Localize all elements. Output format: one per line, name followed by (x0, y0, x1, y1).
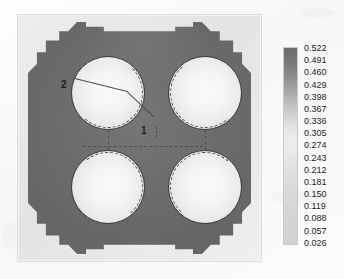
colorbar-tick-6: 0.336 (304, 116, 340, 127)
colorbar-tick-3: 0.429 (304, 80, 340, 91)
colorbar-tick-11: 0.181 (304, 177, 340, 188)
colorbar: 0.5220.4910.4600.4290.3980.3670.3360.305… (283, 47, 341, 249)
colorbar-tick-12: 0.150 (304, 189, 340, 200)
colorbar-tick-7: 0.305 (304, 128, 340, 139)
colorbar-tick-5: 0.367 (304, 104, 340, 115)
colorbar-tick-9: 0.243 (304, 153, 340, 164)
colorbar-tick-15: 0.057 (304, 226, 340, 237)
figure-root: 2 1 0.5220.4910.4600.4290.3980.3670.3360… (0, 0, 344, 279)
plot-frame-border (17, 14, 262, 262)
scan-artifact (2, 220, 18, 250)
colorbar-gradient-swatch (283, 47, 298, 245)
plot-panel: 2 1 (17, 14, 262, 262)
colorbar-tick-labels: 0.5220.4910.4600.4290.3980.3670.3360.305… (304, 43, 340, 249)
colorbar-tick-16: 0.026 (304, 238, 340, 249)
scan-artifact (300, 8, 334, 18)
colorbar-tick-2: 0.460 (304, 67, 340, 78)
colorbar-tick-13: 0.119 (304, 201, 340, 212)
colorbar-tick-4: 0.398 (304, 92, 340, 103)
colorbar-tick-14: 0.088 (304, 213, 340, 224)
colorbar-tick-10: 0.212 (304, 165, 340, 176)
colorbar-tick-0: 0.522 (304, 43, 340, 54)
colorbar-tick-8: 0.274 (304, 140, 340, 151)
colorbar-tick-1: 0.491 (304, 55, 340, 66)
